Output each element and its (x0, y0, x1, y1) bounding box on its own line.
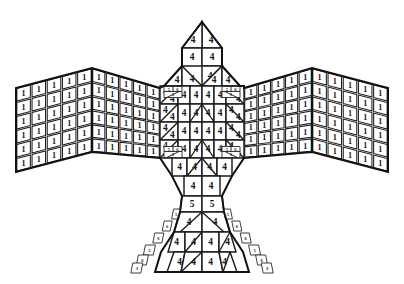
body-cell-label: 4 (175, 75, 180, 85)
left-wing-inner-cell-label: 1 (124, 80, 128, 89)
right-wing-inner-cell-label: 1 (290, 76, 294, 85)
right-wing-outer-cell-label: 1 (333, 77, 337, 86)
left-wing-outer-cell-label: 1 (52, 81, 56, 90)
right-wing-outer-cell-label: 1 (348, 81, 352, 90)
right-wing-outer-cell-label: 1 (348, 95, 352, 104)
right-wing-inner-cell-label: 1 (276, 106, 280, 115)
body-cell-label: 4 (226, 75, 231, 85)
body-cell-label: 4 (190, 74, 195, 84)
body-cell-label: 4 (229, 105, 234, 115)
left-wing-inner-cell-label: 1 (110, 116, 114, 125)
tail-cell-label: 4 (208, 237, 213, 247)
right-wing-outer-cell-label: 1 (378, 145, 382, 154)
left-wing-outer-cell-label: 1 (67, 77, 71, 86)
body-cell-label: 4 (222, 162, 227, 172)
right-wing-outer-cell-label: 1 (348, 137, 352, 146)
left-wing-inner-cell-label: 1 (124, 132, 128, 141)
left-wing-inner-cell-label: 1 (124, 144, 128, 153)
right-wing-inner-cell-label: 1 (303, 128, 307, 137)
left-wing-inner-cell-label: 1 (97, 114, 101, 123)
right-wing-outer-cell-label: 1 (363, 85, 367, 94)
body-cell-label: 4 (182, 108, 187, 118)
right-wing-inner-cell-label: 1 (249, 135, 253, 144)
right-wing-inner-cell-label: 1 (276, 144, 280, 153)
right-wing-inner-cell-label: 1 (303, 86, 307, 95)
left-wing-inner-cell-label: 1 (138, 109, 142, 118)
left-wing-outer-cell-label: 1 (37, 155, 41, 164)
right-wing-outer-cell-label: 1 (363, 113, 367, 122)
right-wing-outer-cell-label: 1 (318, 101, 322, 110)
tail-cell-label: 4 (174, 237, 179, 247)
left-wing-inner-cell-label: 1 (138, 96, 142, 105)
left-wing-outer-cell-label: 1 (67, 133, 71, 142)
right-wing-outer-cell-label: 1 (318, 143, 322, 152)
left-wing-inner-cell-label: 1 (124, 106, 128, 115)
body-cell-label: 4 (212, 75, 217, 85)
body-cell-label: 4 (182, 126, 187, 136)
right-wing-outer-cell-label: 1 (348, 109, 352, 118)
right-wing-inner-cell-label: 1 (249, 123, 253, 132)
left-wing-inner-cell-label: 1 (151, 88, 155, 97)
right-wing-inner-cell-label: 1 (290, 130, 294, 139)
right-wing-inner-cell-label: 1 (249, 100, 253, 109)
left-wing-outer-cell-label: 1 (37, 127, 41, 136)
bird-mesh-diagram: 1111111111111111111111111111111111111111… (0, 0, 404, 284)
right-wing-inner-cell-label: 1 (249, 88, 253, 97)
right-wing-outer-cell-label: 1 (333, 133, 337, 142)
right-wing-inner-cell-label: 1 (262, 96, 266, 105)
right-wing-outer-cell-label: 1 (378, 159, 382, 168)
right-wing-inner-cell-label: 1 (276, 80, 280, 89)
body-cell-label: 4 (236, 130, 241, 140)
body-cell-label: 4 (163, 105, 168, 115)
right-wing-outer-cell-label: 1 (363, 141, 367, 150)
head-region: 4444 (182, 22, 222, 66)
tail-cell-label: 4 (177, 257, 182, 267)
left-wing-inner-cell-label: 1 (97, 86, 101, 95)
left-wing-inner-cell-label: 1 (110, 90, 114, 99)
body-cell-label: 4 (170, 130, 175, 140)
left-wing-inner-cell-label: 1 (97, 100, 101, 109)
left-wing-outer-cell-label: 1 (67, 147, 71, 156)
head-cell-label: 4 (190, 52, 195, 62)
left-wing-inner-cell-label: 1 (110, 130, 114, 139)
right-wing-inner-cell-label: 1 (262, 109, 266, 118)
right-wing-outer-cell-label: 1 (333, 91, 337, 100)
left-wing-outer-cell-label: 1 (22, 103, 26, 112)
right-wing-inner-cell-label: 1 (303, 73, 307, 82)
left-wing-inner-cell-label: 1 (97, 142, 101, 151)
body-cell-label: 4 (191, 181, 196, 191)
right-wing-outer-cell-label: 1 (318, 129, 322, 138)
right-wing-outer-cell-label: 1 (378, 131, 382, 140)
left-wing-inner-cell-label: 1 (110, 76, 114, 85)
body-cell-label: 4 (177, 162, 182, 172)
left-wing-outer-cell-label: 1 (22, 145, 26, 154)
right-wing-outer-cell-label: 1 (348, 123, 352, 132)
right-wing-outer-cell-label: 1 (378, 117, 382, 126)
body-cell-label: 4 (163, 123, 168, 133)
right-wing-inner-cell-label: 1 (262, 84, 266, 93)
body-cell-label: 4 (194, 90, 199, 100)
left-wing-outer-cell-label: 1 (37, 99, 41, 108)
left-wing-outer-cell-label: 1 (22, 117, 26, 126)
right-wing-outer-cell-label: 1 (318, 115, 322, 124)
right-wing-outer-cell-label: 1 (318, 73, 322, 82)
right-wing-inner-cell-label: 1 (262, 121, 266, 130)
left-wing-outer-cell-label: 1 (82, 101, 86, 110)
left-wing-inner-cell-label: 1 (151, 100, 155, 109)
left-wing-outer-cell-label: 1 (67, 119, 71, 128)
diagram-canvas: 1111111111111111111111111111111111111111… (0, 0, 404, 284)
left-wing-outer-cell-label: 1 (67, 105, 71, 114)
right-wing-outer-cell-label: 1 (363, 99, 367, 108)
left-wing-outer-cell-label: 1 (67, 91, 71, 100)
right-wing-outer-cell-label: 1 (378, 89, 382, 98)
body-cell-label: 4 (170, 112, 175, 122)
right-wing-inner-cell-label: 1 (262, 146, 266, 155)
right-wing-inner-cell-label: 1 (276, 93, 280, 102)
tail-cell-label: 4 (208, 257, 213, 267)
head-cell-label: 4 (210, 52, 215, 62)
body-cell-label: 4 (218, 108, 223, 118)
left-wing-outer-cell-label: 1 (82, 143, 86, 152)
left-wing-outer-cell-label: 1 (52, 137, 56, 146)
left-wing-outer-cell-label: 1 (82, 129, 86, 138)
left-wing-inner-cell-label: 1 (151, 135, 155, 144)
